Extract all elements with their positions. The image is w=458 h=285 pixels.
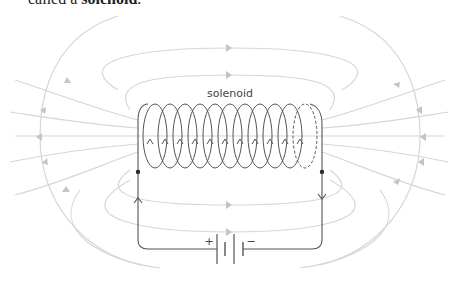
battery-minus-label: − [246,235,255,248]
circuit-wire [134,170,326,249]
current-arrows [147,139,303,144]
solenoid-diagram: solenoid + − [0,0,458,285]
battery-symbol [217,234,243,264]
battery-plus-label: + [204,235,213,248]
coil-label: solenoid [207,87,253,100]
field-direction-arrows [36,44,426,236]
solenoid-coil [138,104,322,172]
